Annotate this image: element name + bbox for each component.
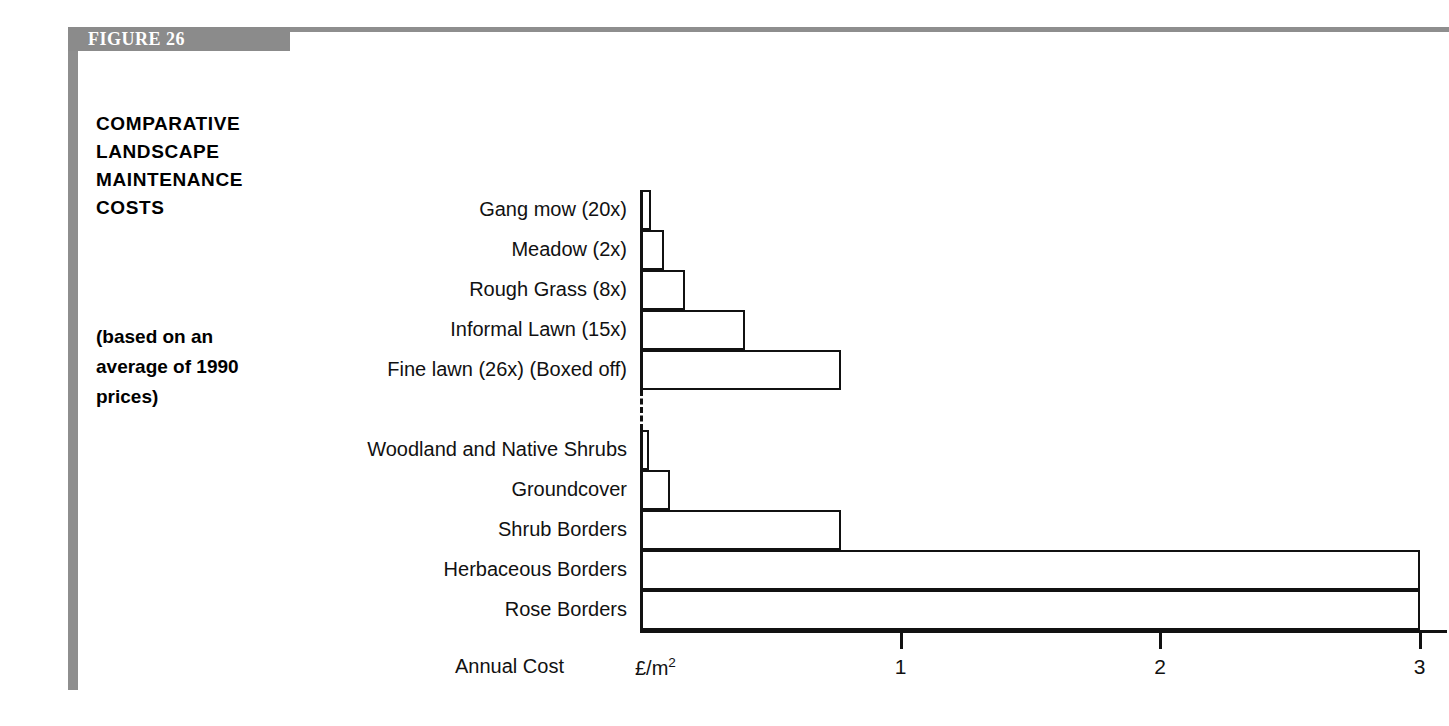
category-label-rough-grass-8x: Rough Grass (8x) <box>300 279 627 299</box>
category-label-herbaceous-borders: Herbaceous Borders <box>300 559 627 579</box>
bar-groundcover <box>641 470 670 510</box>
category-label-meadow-2x: Meadow (2x) <box>300 239 627 259</box>
bar-shrub-borders <box>641 510 841 550</box>
bar-herbaceous-borders <box>641 550 1420 590</box>
y-axis-segment-2 <box>640 430 643 630</box>
category-label-shrub-borders: Shrub Borders <box>300 519 627 539</box>
bar-fine-lawn-26x-boxed-off <box>641 350 841 390</box>
x-axis-tick-2 <box>1159 633 1162 649</box>
axis-break-dashed-line <box>640 390 643 430</box>
category-label-informal-lawn-15x: Informal Lawn (15x) <box>300 319 627 339</box>
category-label-woodland-and-native-shrubs: Woodland and Native Shrubs <box>300 439 627 459</box>
bar-rose-borders <box>641 590 1420 630</box>
x-axis-unit-label: £/m2 <box>635 656 676 678</box>
y-axis-segment-1 <box>640 190 643 390</box>
x-axis-tick-1 <box>900 633 903 649</box>
x-axis-tick-label-3: 3 <box>1390 656 1449 677</box>
category-label-rose-borders: Rose Borders <box>300 599 627 619</box>
bar-rough-grass-8x <box>641 270 685 310</box>
category-label-fine-lawn-26x-boxed-off: Fine lawn (26x) (Boxed off) <box>300 359 627 379</box>
figure-page: FIGURE 26 COMPARATIVE LANDSCAPE MAINTENA… <box>0 0 1449 726</box>
category-label-groundcover: Groundcover <box>300 479 627 499</box>
x-axis-line <box>640 630 1447 633</box>
bar-informal-lawn-15x <box>641 310 745 350</box>
x-axis-tick-3 <box>1419 633 1422 649</box>
bar-chart: Gang mow (20x)Meadow (2x)Rough Grass (8x… <box>0 0 1449 726</box>
x-axis-title: Annual Cost <box>455 656 564 676</box>
x-axis-tick-label-2: 2 <box>1130 656 1190 677</box>
x-axis-tick-label-1: 1 <box>871 656 931 677</box>
category-label-gang-mow-20x: Gang mow (20x) <box>300 199 627 219</box>
bar-meadow-2x <box>641 230 664 270</box>
